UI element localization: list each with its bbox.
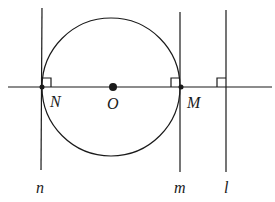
right-angle-m	[171, 78, 180, 87]
right-angle-l	[217, 78, 226, 87]
point-m	[179, 85, 184, 90]
label-line-n: n	[36, 180, 44, 196]
point-n	[40, 85, 45, 90]
label-n-point: N	[50, 94, 61, 110]
label-line-l: l	[224, 180, 228, 196]
label-m-point: M	[187, 95, 200, 111]
point-o	[109, 83, 117, 91]
label-o-point: O	[107, 96, 119, 112]
geometry-diagram: N O M n m l	[0, 0, 275, 202]
diagram-canvas	[0, 0, 275, 202]
label-line-m: m	[174, 180, 186, 196]
